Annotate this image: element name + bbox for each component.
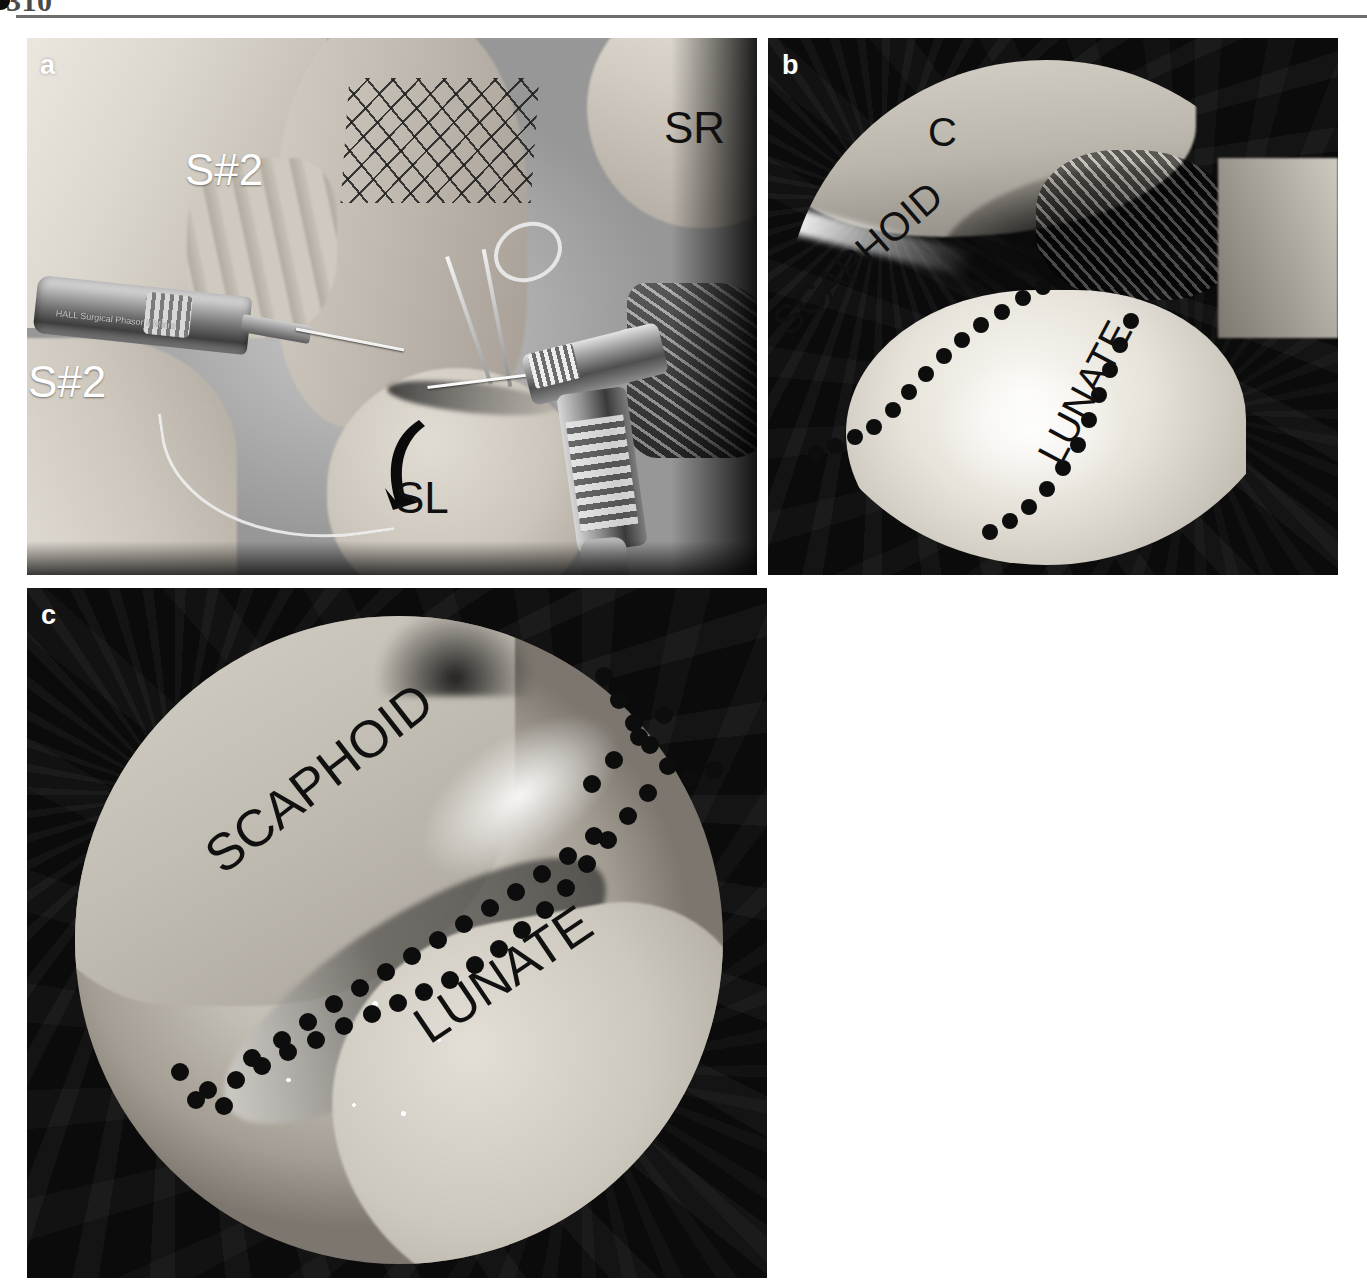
panel-b-edge-tissue — [1218, 158, 1338, 338]
panel-label-a: a — [40, 52, 55, 79]
outline-dot — [243, 1049, 261, 1067]
outline-dot — [630, 728, 648, 746]
outline-dot — [429, 931, 447, 949]
outline-dot — [533, 865, 551, 883]
outline-dot — [187, 1091, 205, 1109]
outline-dot — [827, 438, 843, 454]
outline-dot — [559, 847, 577, 865]
outline-dot — [808, 446, 824, 462]
outline-dot — [377, 963, 395, 981]
outline-dot — [585, 827, 603, 845]
outline-dot — [557, 879, 575, 897]
outline-dot — [0, 0, 10, 10]
outline-dot — [307, 1031, 325, 1049]
outline-dot — [982, 524, 998, 540]
outline-dot — [866, 419, 882, 435]
outline-dot — [610, 691, 628, 709]
outline-dot — [639, 784, 657, 802]
label-a-s-2: S#2 — [28, 360, 106, 404]
panel-b — [768, 38, 1338, 575]
outline-dot — [605, 751, 623, 769]
outline-dot — [273, 1031, 291, 1049]
outline-dot — [171, 1063, 189, 1081]
outline-dot — [583, 775, 601, 793]
figure-container: HALL Surgical Phasor II Micro — [0, 0, 1367, 1283]
outline-dot — [936, 348, 952, 364]
outline-dot — [227, 1071, 245, 1089]
outline-dot — [578, 855, 596, 873]
label-b-c: C — [928, 112, 957, 152]
outline-dot — [299, 1013, 317, 1031]
outline-dot — [507, 883, 525, 901]
outline-dot — [595, 667, 613, 685]
outline-dot — [325, 995, 343, 1013]
panel-label-b: b — [782, 52, 799, 79]
outline-dot — [918, 366, 934, 382]
mesh-netting — [341, 78, 540, 203]
outline-dot — [847, 429, 863, 445]
outline-dot — [994, 304, 1010, 320]
outline-dot — [455, 915, 473, 933]
torn-ligament — [1036, 150, 1236, 300]
label-a-sr: SR — [664, 106, 725, 150]
outline-dot — [681, 769, 699, 787]
outline-dot — [1021, 499, 1037, 515]
label-a-sl: SL — [395, 476, 449, 520]
outline-dot — [901, 384, 917, 400]
outline-dot — [403, 947, 421, 965]
outline-dot — [973, 317, 989, 333]
outline-dot — [705, 761, 723, 779]
outline-dot — [954, 332, 970, 348]
outline-dot — [363, 1005, 381, 1023]
outline-dot — [351, 979, 369, 997]
outline-dot — [659, 757, 677, 775]
outline-dot — [1002, 513, 1018, 529]
panel-a-vignette-bottom — [27, 541, 757, 575]
outline-dot — [1039, 481, 1055, 497]
outline-dot — [1015, 290, 1031, 306]
label-a-s-2: S#2 — [185, 148, 263, 192]
outline-dot — [481, 899, 499, 917]
outline-dot — [1035, 279, 1051, 295]
outline-dot — [655, 706, 673, 724]
outline-dot — [215, 1097, 233, 1115]
outline-dot — [335, 1017, 353, 1035]
panel-a: HALL Surgical Phasor II Micro — [27, 38, 757, 575]
outline-dot — [619, 807, 637, 825]
panel-label-c: c — [41, 602, 56, 629]
outline-dot — [885, 402, 901, 418]
